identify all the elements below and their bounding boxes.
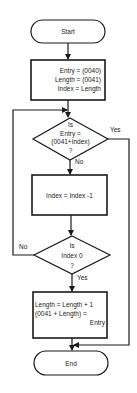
check-index-no-label: No <box>19 243 27 250</box>
init-line-2: Length = (0041) <box>31 75 101 84</box>
init-line-1: Entry = (0040) <box>31 66 101 75</box>
append-label: Length = Length + 1 (0041 + Length) = En… <box>35 300 105 327</box>
check-entry-no-label: No <box>75 158 83 165</box>
check-entry-line-2: Entry = <box>33 130 108 139</box>
check-entry-line-1: Is <box>33 121 108 130</box>
end-label: End <box>34 359 108 368</box>
check-index-line-3: ? <box>34 261 110 271</box>
append-line-3: Entry <box>35 318 105 327</box>
check-index-line-2: Index 0 <box>34 251 110 261</box>
start-label: Start <box>31 27 105 36</box>
append-line-2: (0041 + Length) = <box>35 309 105 318</box>
check-entry-line-3: (0041+Index) <box>33 138 108 147</box>
check-entry-line-4: ? <box>33 147 108 156</box>
init-label: Entry = (0040) Length = (0041) Index = L… <box>31 66 101 93</box>
init-line-3: Index = Length <box>31 84 101 93</box>
decrement-label: Index = Index -1 <box>32 191 107 200</box>
check-index-label: Is Index 0 ? <box>34 241 110 271</box>
append-line-1: Length = Length + 1 <box>35 300 105 309</box>
decrement-line-1: Index = Index -1 <box>32 191 107 200</box>
check-index-line-1: Is <box>34 241 110 251</box>
check-index-yes-label: Yes <box>77 274 88 281</box>
check-entry-label: Is Entry = (0041+Index) ? <box>33 121 108 155</box>
check-entry-yes-label: Yes <box>110 126 121 133</box>
